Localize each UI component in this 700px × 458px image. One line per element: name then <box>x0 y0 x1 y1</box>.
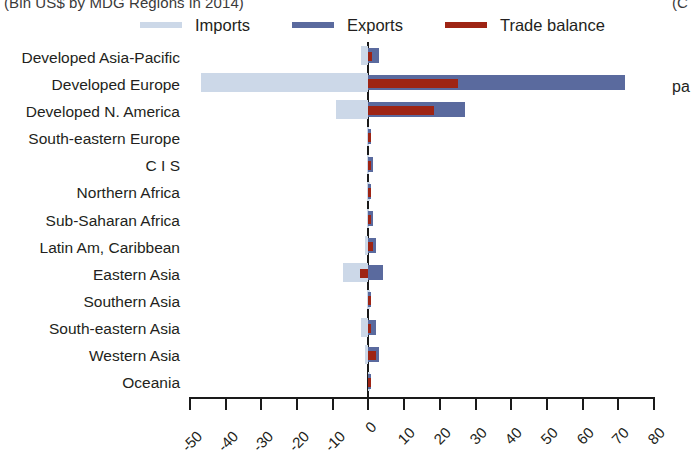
bar-balance <box>368 351 376 360</box>
chart-row <box>190 180 654 207</box>
bar-balance <box>368 188 370 197</box>
bar-imports <box>336 100 368 119</box>
chart-row <box>190 288 654 315</box>
x-axis-tick-label: -20 <box>285 427 312 454</box>
bar-balance <box>368 79 457 88</box>
bar-balance <box>368 296 370 305</box>
x-axis-tick <box>225 397 227 410</box>
x-axis-tick-label: 80 <box>644 424 668 448</box>
x-axis-tick <box>546 397 548 410</box>
x-axis-tick <box>617 397 619 410</box>
y-axis-label: Developed N. America <box>26 104 180 120</box>
legend-label-exports: Exports <box>347 16 403 35</box>
bar-balance <box>368 133 370 142</box>
legend-item-exports[interactable]: Exports <box>292 16 403 35</box>
bar-balance <box>368 378 370 387</box>
legend-swatch-balance <box>445 22 487 28</box>
y-axis-label: Southern Asia <box>83 294 180 310</box>
x-axis-tick-label: 20 <box>430 424 454 448</box>
bar-imports <box>361 46 368 65</box>
bar-balance <box>368 324 370 333</box>
x-axis-tick-label: -30 <box>249 427 276 454</box>
x-axis-tick-label: 50 <box>537 424 561 448</box>
legend-item-balance[interactable]: Trade balance <box>445 16 605 35</box>
legend-item-imports[interactable]: Imports <box>140 16 250 35</box>
chart-row <box>190 234 654 261</box>
x-axis-tick <box>653 397 655 410</box>
y-axis-label: Northern Africa <box>77 185 180 201</box>
chart-row <box>190 153 654 180</box>
x-axis-tick-label: 0 <box>362 418 380 436</box>
legend-label-imports: Imports <box>195 16 250 35</box>
y-axis-label: Western Asia <box>89 348 180 364</box>
bar-balance <box>368 215 371 224</box>
x-axis-tick-label: -50 <box>178 427 205 454</box>
y-axis-label: Eastern Asia <box>93 267 180 283</box>
chart-row <box>190 343 654 370</box>
bar-imports <box>201 73 369 92</box>
bar-balance <box>360 269 369 278</box>
x-axis-tick <box>332 397 334 410</box>
chart-title-right-clipped: (C <box>672 0 700 11</box>
plot-area <box>190 44 654 397</box>
y-axis-label: Latin Am, Caribbean <box>40 240 180 256</box>
x-axis-tick-label: 30 <box>466 424 490 448</box>
chart-row <box>190 98 654 125</box>
x-axis-tick <box>189 397 191 410</box>
bar-imports <box>361 318 368 337</box>
bar-balance <box>368 161 371 170</box>
x-axis-tick <box>296 397 298 410</box>
y-axis-label: South-eastern Asia <box>49 321 180 337</box>
chart-root: (Bln US$ by MDG Regions in 2014) (C Impo… <box>0 0 700 458</box>
x-axis-tick <box>260 397 262 410</box>
bar-balance <box>368 242 373 251</box>
chart-row <box>190 44 654 71</box>
chart-row <box>190 316 654 343</box>
x-axis-tick-label: -10 <box>321 427 348 454</box>
chart-row <box>190 261 654 288</box>
right-clipped-annotation: pa <box>672 78 700 96</box>
legend-swatch-imports <box>140 22 182 28</box>
x-axis-tick <box>439 397 441 410</box>
bar-balance <box>368 52 372 61</box>
chart-legend: ImportsExportsTrade balance <box>140 13 647 37</box>
x-axis-tick <box>510 397 512 410</box>
x-axis-tick <box>582 397 584 410</box>
legend-swatch-exports <box>292 22 334 28</box>
legend-label-balance: Trade balance <box>500 16 605 35</box>
chart-title: (Bln US$ by MDG Regions in 2014) <box>4 0 244 11</box>
x-axis-tick <box>403 397 405 410</box>
x-axis-tick-label: 60 <box>573 424 597 448</box>
chart-row <box>190 370 654 397</box>
y-axis-label: Oceania <box>122 375 180 391</box>
x-axis-tick-label: 10 <box>394 424 418 448</box>
y-axis-label: Developed Europe <box>52 77 180 93</box>
x-axis-tick <box>475 397 477 410</box>
y-axis-labels: Developed Asia-PacificDeveloped EuropeDe… <box>0 44 184 397</box>
y-axis-label: South-eastern Europe <box>28 131 180 147</box>
x-axis-tick-label: 40 <box>501 424 525 448</box>
chart-row <box>190 125 654 152</box>
y-axis-label: Sub-Saharan Africa <box>46 213 180 229</box>
x-axis-tick <box>367 397 369 410</box>
x-axis-tick-label: -40 <box>214 427 241 454</box>
bar-balance <box>368 106 434 115</box>
bar-exports <box>368 265 382 280</box>
y-axis-label: C I S <box>146 158 180 174</box>
chart-row <box>190 207 654 234</box>
chart-row <box>190 71 654 98</box>
x-axis-tick-label: 70 <box>608 424 632 448</box>
y-axis-label: Developed Asia-Pacific <box>21 50 180 66</box>
